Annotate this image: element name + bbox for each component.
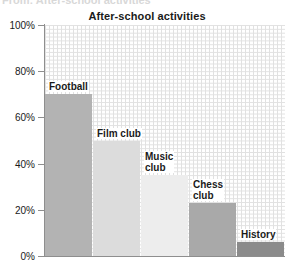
chart-title: After-school activities (0, 10, 294, 22)
bar (141, 175, 188, 256)
y-axis-tick (38, 117, 44, 118)
y-axis-label: 100% (0, 20, 35, 31)
bar (237, 242, 284, 256)
bar-chart: From: After-school activities After-scho… (0, 0, 294, 268)
cutoff-text-strip: From: After-school activities (0, 0, 294, 9)
plot-area (45, 25, 285, 256)
y-axis-label: 80% (0, 66, 35, 77)
y-axis-tick (38, 164, 44, 165)
y-axis-line (44, 24, 45, 257)
bar-label: History (240, 229, 276, 240)
y-axis-tick (38, 25, 44, 26)
bar (45, 94, 92, 256)
y-axis-label: 60% (0, 112, 35, 123)
bar-label: Film club (96, 128, 142, 139)
y-axis-label: 40% (0, 158, 35, 169)
bar-label: Football (48, 81, 89, 92)
y-axis-tick (38, 256, 44, 257)
y-axis-tick (38, 210, 44, 211)
bar-label: Chess club (192, 179, 224, 201)
x-axis-line (38, 256, 285, 257)
bar (189, 203, 236, 256)
y-axis-label: 20% (0, 204, 35, 215)
y-axis-label: 0% (0, 251, 35, 262)
bar (93, 141, 140, 257)
cutoff-text: From: After-school activities (2, 0, 151, 6)
y-axis-tick (38, 71, 44, 72)
bar-label: Music club (144, 151, 174, 173)
